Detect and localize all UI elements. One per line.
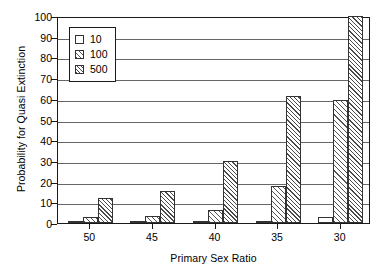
bar <box>145 216 160 223</box>
x-axis-tick <box>340 224 341 229</box>
y-axis-tick-label: 100 <box>22 12 52 22</box>
x-axis-tick <box>152 224 153 229</box>
legend-label: 10 <box>90 34 102 45</box>
bar <box>98 198 113 223</box>
y-axis-tick-label: 0 <box>22 219 52 229</box>
y-axis-tick-label: 20 <box>22 178 52 188</box>
x-axis-tick-label: 30 <box>320 231 360 243</box>
bar <box>223 161 238 223</box>
plot-area: 10 100 500 <box>57 17 370 224</box>
y-axis-tick-label: 50 <box>22 116 52 126</box>
legend-item[interactable]: 500 <box>75 62 108 77</box>
x-axis-tick-label: 40 <box>195 231 235 243</box>
legend-item[interactable]: 10 <box>75 32 108 47</box>
legend-swatch-10-icon <box>75 35 84 44</box>
bar <box>130 221 145 223</box>
bar <box>318 217 333 223</box>
bar <box>348 16 363 223</box>
bar <box>193 221 208 223</box>
legend-swatch-100-icon <box>75 50 84 59</box>
x-axis-tick-label: 35 <box>257 231 297 243</box>
bar <box>286 96 301 223</box>
y-axis-tick-label: 80 <box>22 53 52 63</box>
legend-swatch-500-icon <box>75 65 84 74</box>
legend-label: 100 <box>90 49 108 60</box>
y-axis-tick-label: 90 <box>22 33 52 43</box>
bar <box>271 186 286 223</box>
legend-label: 500 <box>90 64 108 75</box>
y-axis-tick-label: 70 <box>22 74 52 84</box>
x-axis-tick <box>89 224 90 229</box>
bar <box>83 217 98 223</box>
x-axis-label: Primary Sex Ratio <box>57 252 370 264</box>
legend-item[interactable]: 100 <box>75 47 108 62</box>
y-axis-tick-label: 10 <box>22 198 52 208</box>
x-axis-tick-label: 50 <box>69 231 109 243</box>
chart-legend: 10 100 500 <box>69 27 116 82</box>
x-axis-tick <box>215 224 216 229</box>
bar <box>333 100 348 223</box>
bar <box>208 210 223 224</box>
chart-figure: Probability for Quasi Extinction 0102030… <box>0 0 386 275</box>
x-axis-tick-label: 45 <box>132 231 172 243</box>
y-axis-tick-label: 30 <box>22 157 52 167</box>
y-axis-tick-label: 60 <box>22 95 52 105</box>
x-axis-tick <box>277 224 278 229</box>
y-axis-tick-label: 40 <box>22 136 52 146</box>
bar <box>160 191 175 223</box>
bar <box>256 221 271 223</box>
bar <box>68 221 83 223</box>
